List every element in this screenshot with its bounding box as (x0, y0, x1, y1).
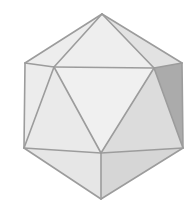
edge-line (24, 63, 25, 148)
edge-line (182, 63, 183, 148)
icosahedron-drawing (0, 0, 190, 207)
icosahedron-figure (0, 0, 190, 207)
edge-line (54, 67, 154, 68)
faces-group (24, 14, 183, 199)
